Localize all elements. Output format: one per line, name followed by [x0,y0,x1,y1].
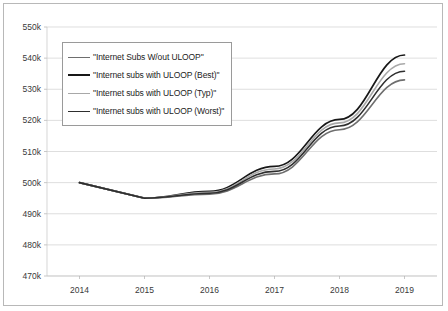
y-tick-label: 530k [23,84,42,94]
y-tick-label: 470k [23,271,42,281]
chart-legend: "Internet Subs W/out ULOOP""Internet sub… [62,42,232,126]
x-tick-label: 2018 [330,285,349,295]
y-tick-label: 510k [23,147,42,157]
legend-item-3: "Internet subs with ULOOP (Worst)" [68,102,224,120]
x-axis-tick-labels: 201420152016201720182019 [70,285,414,295]
y-tick-label: 490k [23,209,42,219]
y-tick-label: 520k [23,115,42,125]
legend-line-swatch-icon [68,74,90,76]
x-tick-label: 2015 [135,285,154,295]
legend-item-0: "Internet Subs W/out ULOOP" [68,48,224,66]
legend-line-swatch-icon [68,111,90,112]
y-tick-label: 500k [23,178,42,188]
y-tick-label: 480k [23,240,42,250]
legend-item-label: "Internet subs with ULOOP (Worst)" [93,106,224,116]
legend-item-label: "Internet subs with ULOOP (Best)" [93,70,219,80]
legend-item-2: "Internet subs with ULOOP (Typ)" [68,84,224,102]
chart-frame: 550k540k530k520k510k500k490k480k470k 201… [3,3,443,306]
legend-item-1: "Internet subs with ULOOP (Best)" [68,66,224,84]
y-tick-label: 540k [23,53,42,63]
x-tick-label: 2016 [200,285,219,295]
y-axis-tick-labels: 550k540k530k520k510k500k490k480k470k [23,22,42,281]
x-tick-label: 2019 [395,285,414,295]
legend-line-swatch-icon [68,57,90,58]
y-tick-label: 550k [23,22,42,32]
x-tick-label: 2014 [70,285,89,295]
legend-line-swatch-icon [68,93,90,94]
x-tick-label: 2017 [265,285,284,295]
legend-item-label: "Internet subs with ULOOP (Typ)" [93,88,216,98]
legend-item-label: "Internet Subs W/out ULOOP" [93,52,204,62]
